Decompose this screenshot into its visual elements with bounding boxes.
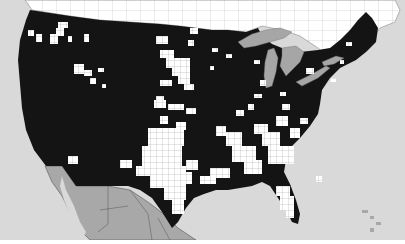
bottom-margin xyxy=(0,240,405,244)
county-map xyxy=(0,0,405,244)
map-canvas xyxy=(0,0,405,244)
